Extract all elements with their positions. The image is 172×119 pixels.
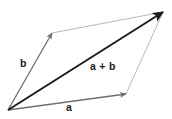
vector-addition-figure: b a a + b <box>0 0 172 119</box>
vector-sum-label: a + b <box>90 61 116 72</box>
vector-b-arrow <box>8 33 52 110</box>
vector-b-label: b <box>20 58 26 69</box>
vector-a-label: a <box>66 102 72 113</box>
